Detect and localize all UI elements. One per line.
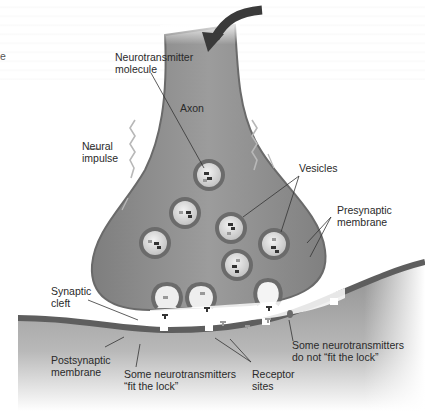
neural-impulse-label: Neural impulse <box>82 140 118 164</box>
vesicles-label: Vesicles <box>299 162 338 174</box>
vesicle <box>223 251 251 279</box>
fit-the-lock-label: Some neurotransmitters “fit the lock” <box>124 368 236 392</box>
presynaptic-membrane-label: Presynaptic membrane <box>337 204 392 228</box>
vesicle <box>141 229 169 257</box>
postsynaptic-membrane-label: Postsynaptic membrane <box>51 354 111 378</box>
receptor-sites-label: Receptor sites <box>252 368 295 392</box>
vesicle <box>217 214 245 242</box>
vesicle <box>260 230 288 258</box>
neurotransmitter-molecule-label: Neurotransmitter molecule <box>115 51 193 75</box>
axon-label: Axon <box>180 102 204 114</box>
vesicle <box>195 161 223 189</box>
vesicle <box>171 199 199 227</box>
synaptic-cleft-label: Synaptic cleft <box>51 285 91 309</box>
edge-fragment-label: e <box>0 50 6 62</box>
not-fit-the-lock-label: Some neurotransmitters do not “fit the l… <box>292 339 404 363</box>
